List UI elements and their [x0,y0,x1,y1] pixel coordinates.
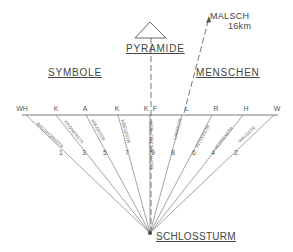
svg-text:ADLERSTR: ADLERSTR [90,118,106,142]
street-abbr: K [144,105,149,112]
svg-text:KARL-FRIEDRICH-STR: KARL-FRIEDRICH-STR [148,121,153,170]
street-number: 1 [59,149,63,156]
svg-text:LAMMSTR: LAMMSTR [172,117,183,140]
malsch-direction-line [184,18,209,113]
symbols-label: SYMBOLE [48,67,102,78]
street-abbr: R [213,105,218,112]
street-number: 3 [82,149,86,156]
svg-text:HERRENSTR: HERRENSTR [213,125,235,151]
street-abbr: F [153,105,157,112]
street-number: 9 [151,149,155,156]
street-abbr: K [54,105,59,112]
street-abbr: L [185,105,189,112]
svg-text:RITTERSTR: RITTERSTR [194,123,211,148]
street-number: 7 [125,149,129,156]
street-number: 2 [234,149,238,156]
castle-tower-icon [148,231,152,235]
street-number: 8 [171,149,175,156]
svg-text:WALDHORNSTR: WALDHORNSTR [35,121,64,149]
street-abbr: WH [16,105,28,112]
pyramid-icon [135,22,166,38]
street-number: 4 [211,149,215,156]
castle-tower-label: SCHLOSSTURM [156,231,236,242]
malsch-label: MALSCH [210,11,249,21]
street-abbr: A [83,105,88,112]
malsch-distance: 16km [228,21,251,31]
street-abbr: H [243,105,248,112]
people-label: MENSCHEN [196,67,260,78]
svg-text:KREUZSTR: KREUZSTR [120,119,131,144]
street-number: 6 [192,149,196,156]
street-number: 5 [103,149,107,156]
fan-plan-diagram: WALDHORNSTR KRONENSTR ADLERSTR KREUZSTR … [0,0,293,252]
street-abbr: W [274,105,281,112]
svg-text:KRONENSTR: KRONENSTR [63,120,85,146]
street-abbr: K [115,105,120,112]
pyramid-label: PYRAMIDE [126,43,185,54]
